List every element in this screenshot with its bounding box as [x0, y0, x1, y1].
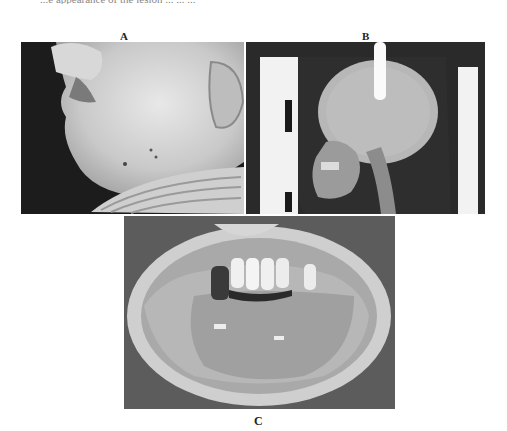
panel-label-b: B [362, 30, 369, 42]
skull-radiograph-image [246, 42, 485, 214]
panel-label-a: A [120, 30, 128, 42]
cut-off-caption-text: ...e appearance of the lesion ... ... ..… [40, 0, 480, 4]
face-profile-image [21, 42, 244, 214]
panel-label-c: C [254, 414, 263, 429]
panel-b-skull-xray [246, 42, 485, 214]
panel-a-face-photo [21, 42, 244, 214]
intraoral-image [124, 216, 395, 409]
panel-c-intraoral-photo [124, 216, 395, 409]
